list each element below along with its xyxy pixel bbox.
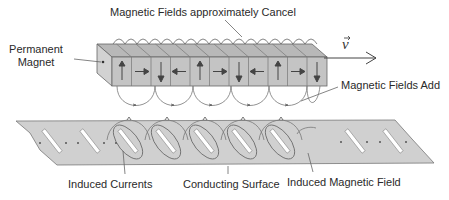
upper-field-arcs	[113, 39, 317, 44]
permanent-magnet	[97, 44, 327, 86]
label-fields-add: Magnetic Fields Add	[341, 79, 440, 91]
label-conducting-surface: Conducting Surface	[183, 178, 280, 190]
leader-fields-cancel	[225, 20, 242, 37]
label-fields-cancel: Magnetic Fields approximately Cancel	[110, 6, 296, 18]
label-permanent-magnet: Permanent	[9, 43, 63, 55]
label-permanent-magnet-2: Magnet	[18, 56, 55, 68]
magnet-top-face	[97, 44, 327, 57]
label-induced-magnetic-field: Induced Magnetic Field	[287, 176, 401, 188]
halbach-array-diagram: Magnetic Fields approximately Cancel	[0, 0, 449, 200]
label-induced-currents: Induced Currents	[68, 178, 153, 190]
lower-field-loops	[117, 86, 320, 106]
conducting-surface	[16, 117, 434, 165]
velocity-arrow-icon	[324, 52, 376, 64]
